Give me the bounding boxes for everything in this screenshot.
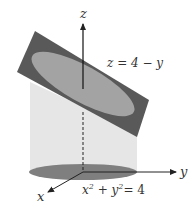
cylinder-equation-label: x2 + y2= 4 bbox=[82, 183, 145, 196]
x-axis-label: x bbox=[37, 190, 44, 203]
plane-equation-label: z = 4 − y bbox=[107, 57, 163, 69]
z-axis-label: z bbox=[80, 7, 87, 20]
y-axis-label: y bbox=[180, 165, 187, 178]
diagram-canvas: z y x z = 4 − y x2 + y2= 4 bbox=[0, 0, 194, 213]
